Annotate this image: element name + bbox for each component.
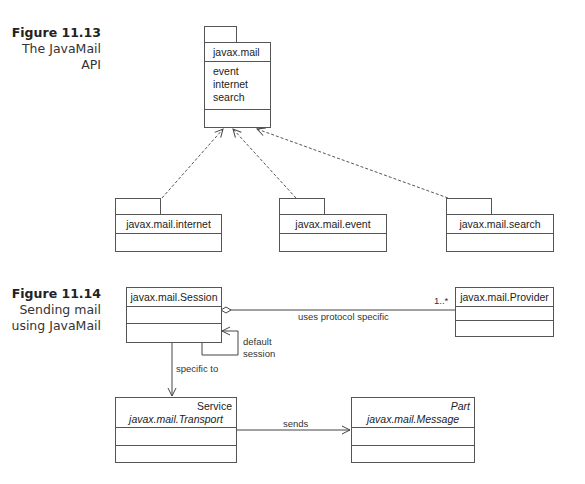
package-name: javax.mail.search <box>447 215 553 234</box>
package-javax-mail-event: javax.mail.event <box>279 214 387 252</box>
self-label-default: default <box>243 336 272 347</box>
package-content: search <box>213 91 270 104</box>
specific-to-label: specific to <box>176 363 218 374</box>
package-tab <box>446 198 492 215</box>
class-transport: Service javax.mail.Transport <box>115 397 237 463</box>
package-name: javax.mail.internet <box>116 215 221 234</box>
dependency-search <box>257 129 448 198</box>
package-content: event <box>213 65 270 78</box>
package-tab <box>204 26 237 43</box>
self-label-session: session <box>243 348 275 359</box>
package-javax-mail: javax.mail event internet search <box>204 42 271 128</box>
dependency-internet <box>162 129 223 198</box>
class-name: javax.mail.Transport <box>116 413 236 426</box>
uses-label: uses protocol specific <box>298 311 389 322</box>
package-name: javax.mail <box>205 43 270 62</box>
package-tab <box>279 198 325 215</box>
multiplicity-label: 1..* <box>434 295 448 306</box>
class-stereotype: Service <box>116 400 236 413</box>
package-content: internet <box>213 78 270 91</box>
sends-label: sends <box>283 418 308 429</box>
class-name: javax.mail.Session <box>127 288 221 307</box>
package-name: javax.mail.event <box>280 215 386 234</box>
class-name: javax.mail.Message <box>352 413 474 426</box>
class-provider: javax.mail.Provider <box>455 287 554 337</box>
package-javax-mail-internet: javax.mail.internet <box>115 214 222 252</box>
class-session: javax.mail.Session <box>126 287 222 343</box>
class-stereotype: Part <box>352 400 474 413</box>
package-javax-mail-search: javax.mail.search <box>446 214 554 252</box>
class-name: javax.mail.Provider <box>456 288 553 307</box>
aggregation-diamond <box>221 307 231 313</box>
class-message: Part javax.mail.Message <box>351 397 475 463</box>
package-tab <box>115 198 161 215</box>
